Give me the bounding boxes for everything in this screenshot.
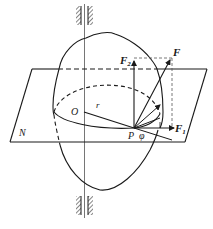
label-o: O bbox=[71, 106, 78, 117]
force-f-vector bbox=[134, 60, 170, 128]
rigid-body-force-diagram: F F2 F1 O r P φ N bbox=[0, 0, 213, 229]
label-f: F bbox=[172, 46, 181, 58]
body-outline bbox=[53, 33, 163, 191]
label-phi: φ bbox=[139, 130, 145, 141]
label-r: r bbox=[96, 100, 100, 110]
label-n: N bbox=[18, 127, 27, 138]
label-p: P bbox=[127, 130, 134, 141]
radius-line bbox=[84, 112, 134, 128]
rotation-circle bbox=[54, 85, 160, 128]
label-f1: F1 bbox=[174, 122, 186, 136]
label-f2: F2 bbox=[119, 54, 131, 68]
